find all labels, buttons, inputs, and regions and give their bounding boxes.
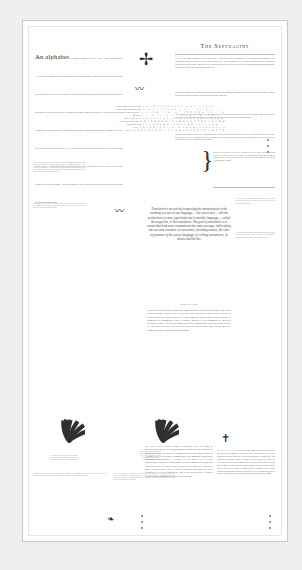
cross-ornament: ✝ xyxy=(221,433,230,444)
sunburst-ornament-left xyxy=(55,413,85,447)
character-grid-note: Each letter in each row has a direct cou… xyxy=(213,151,275,161)
capitalization-text: is broadly the distinction in a script b… xyxy=(217,449,275,474)
flourish-ornament: ❧ xyxy=(107,515,115,524)
capitalization-heading: Capitalization xyxy=(217,449,238,451)
translation-column-body: Translation Strictly defined, translatio… xyxy=(145,445,213,478)
wave-ornament-secondary: 〰 xyxy=(115,207,123,216)
document-page-canvas: An alphabetis a complete standardized se… xyxy=(0,0,302,570)
margin-tick xyxy=(141,527,143,529)
printed-page: An alphabetis a complete standardized se… xyxy=(22,20,288,542)
septuagint-title: The Septuagint xyxy=(175,43,275,49)
character-sample-grid: Hebrew square script, as it stands א ב ג… xyxy=(97,105,225,132)
margin-tick xyxy=(269,527,271,529)
dagger-ornament: ✢ xyxy=(139,51,153,68)
translation-column-text: Strictly defined, translation is not the… xyxy=(145,445,213,478)
grid-row-glyphs: A B C D E F G H I J K L M N O P Q R S T … xyxy=(134,129,225,132)
alphabet-column-note: Letters are the smallest functional unit… xyxy=(33,161,85,172)
punctuation-body: is the use of special signs or marks in … xyxy=(147,309,231,332)
wave-ornament: 〰 xyxy=(135,85,143,94)
bottom-left-note: Orthography is the conventional spelling… xyxy=(33,473,107,477)
capitalization-column-body: Capitalization is broadly the distinctio… xyxy=(217,449,275,475)
margin-tick xyxy=(267,151,269,153)
bottom-left-caption: Letters were created by standards other … xyxy=(49,455,79,461)
punctuation-kicker: Punctuation xyxy=(147,303,231,306)
margin-tick xyxy=(141,515,143,517)
right-margin-note-1: Letters were created by standards other … xyxy=(235,197,275,204)
alphabet-footnote: Orthography is the conventional spelling… xyxy=(33,203,85,209)
septuagint-para-2: The core sequence of the Septuagint coin… xyxy=(175,91,275,97)
translation-column-heading: Translation xyxy=(145,445,163,447)
margin-tick xyxy=(269,515,271,517)
grid-note-rule xyxy=(213,187,275,188)
alphabet-opener-display: An alphabet xyxy=(35,53,69,60)
grid-row-label: the early xyxy=(97,129,134,132)
brace-ornament: } xyxy=(201,147,213,173)
sunburst-ornament-center xyxy=(149,413,179,447)
margin-tick xyxy=(267,145,269,147)
septuagint-title-rule xyxy=(175,54,275,55)
septuagint-para-4: Since there are various editions of the … xyxy=(175,133,275,141)
margin-tick xyxy=(141,521,143,523)
septuagint-para-1: (LXX) is the name commonly given in the … xyxy=(175,57,275,69)
margin-tick xyxy=(267,139,269,141)
margin-tick xyxy=(269,521,271,523)
translation-pull-quote: Translation is an activity comprising th… xyxy=(147,207,231,241)
right-margin-note-2: A caption set in the margin, where the m… xyxy=(235,231,275,238)
